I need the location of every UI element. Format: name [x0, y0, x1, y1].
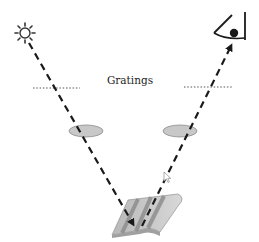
reflected-ray [142, 46, 231, 226]
diagram-canvas: Gratings [0, 0, 259, 242]
eye-icon [214, 12, 245, 40]
sun-icon [15, 23, 35, 43]
lens-left [69, 125, 103, 137]
gratings-label: Gratings [107, 74, 153, 86]
grating-surface [112, 194, 182, 238]
